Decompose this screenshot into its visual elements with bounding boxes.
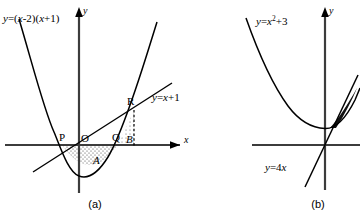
- panel-b-y-axis-label: y: [328, 5, 334, 16]
- panel-a-y-axis-label: y: [82, 5, 88, 16]
- panel-b-line: [305, 75, 358, 187]
- panel-b-caption: (b): [311, 198, 324, 210]
- panel-b-curve-label: y=x2+3: [255, 14, 288, 27]
- panel-a-point-label-q: Q: [112, 131, 120, 143]
- panel-b-line-label: y=4x: [264, 161, 287, 173]
- panel-a-caption: (a): [88, 198, 101, 210]
- panel-a-x-axis-label: x: [183, 134, 189, 145]
- panel-a: x y P O Q R B A y=(x-2)(x+1) y=x+1 (a): [2, 5, 189, 210]
- panel-a-point-label-r: R: [127, 95, 135, 107]
- panel-a-x-axis-arrow: [170, 141, 180, 149]
- panel-b: y y=x2+3 y=4x (b): [246, 5, 360, 210]
- panel-a-region-label-a: A: [92, 154, 100, 166]
- panel-b-region-fill: [330, 88, 357, 128]
- panel-a-line-label: y=x+1: [151, 91, 180, 103]
- math-figure: x y P O Q R B A y=(x-2)(x+1) y=x+1 (a): [0, 0, 360, 216]
- panel-a-curve-label: y=(x-2)(x+1): [2, 12, 60, 25]
- panel-b-y-axis-arrow: [321, 7, 329, 17]
- panel-a-point-label-b: B: [126, 133, 133, 145]
- panel-a-y-axis-arrow: [75, 7, 83, 17]
- panel-a-point-label-p: P: [59, 131, 65, 143]
- panel-a-point-label-o: O: [81, 132, 89, 144]
